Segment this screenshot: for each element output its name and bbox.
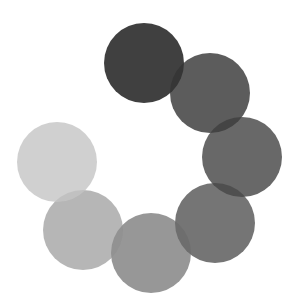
loading-spinner [0,0,305,295]
spinner-dot-5 [111,213,191,293]
spinner-dot-7 [17,122,97,202]
spinner-dot-6 [43,190,123,270]
